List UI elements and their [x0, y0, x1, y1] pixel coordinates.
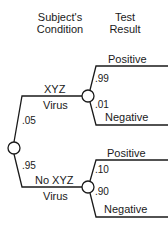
no-xyz-chance-node: [82, 181, 94, 193]
branch-xyz-label-top: XYZ: [44, 83, 65, 95]
xyz-negative-probability: .01: [95, 99, 109, 110]
branch-xyz-probability: .05: [22, 115, 36, 126]
xyz-chance-node: [82, 90, 94, 102]
xyz-positive-label: Positive: [108, 53, 147, 65]
no-xyz-negative-label: Negative: [104, 203, 147, 215]
branch-no-xyz-label-top: No XYZ: [35, 174, 74, 186]
branch-no-xyz-probability: .95: [22, 160, 36, 171]
xyz-positive-probability: .99: [95, 73, 109, 84]
no-xyz-negative-probability: .90: [95, 186, 109, 197]
branch-xyz-label-bottom: Virus: [43, 99, 68, 111]
no-xyz-positive-probability: .10: [95, 164, 109, 175]
branch-no-xyz-label-bottom: Virus: [43, 190, 68, 202]
xyz-negative-label: Negative: [105, 111, 148, 123]
root-chance-node: [8, 142, 20, 154]
condition-header: Subject's Condition: [30, 11, 90, 35]
result-header: Test Result: [100, 11, 150, 35]
no-xyz-positive-label: Positive: [107, 147, 146, 159]
